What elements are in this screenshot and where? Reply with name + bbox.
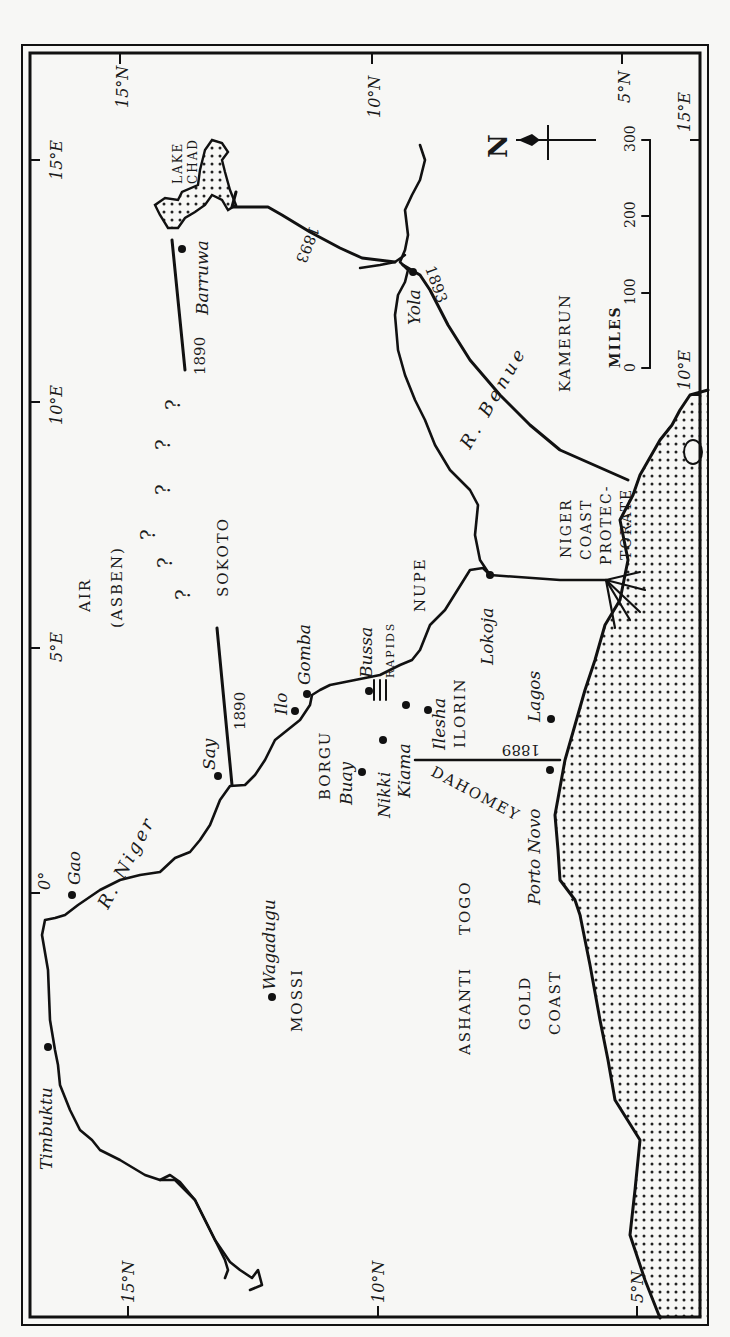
region-niger-coast-1: NIGER <box>558 498 574 558</box>
river-niger-branch <box>160 1175 262 1290</box>
label-ilesha: Ilesha <box>429 698 449 751</box>
marker-lokoja <box>486 571 494 579</box>
label-bussa: Bussa <box>356 627 376 679</box>
label-1893-north: 1893 <box>292 224 323 266</box>
marker-ilo <box>291 707 299 715</box>
label-gomba: Gomba <box>294 624 314 685</box>
compass-label: N <box>483 134 513 158</box>
label-timbuktu: Timbuktu <box>36 1087 56 1170</box>
label-yola: Yola <box>404 289 424 325</box>
label-1889: 1889 <box>502 741 540 759</box>
scale-tick-100: 100 <box>622 278 638 305</box>
marker-lagos <box>547 715 555 723</box>
question-mark: ? <box>171 589 195 600</box>
label-buay: Buay <box>336 761 356 806</box>
lon-left-5e: 5°E <box>47 632 66 662</box>
label-wagadugu: Wagadugu <box>259 899 279 990</box>
marker-yola <box>409 268 417 276</box>
lon-right-10e: 10°E <box>675 350 694 390</box>
label-ilo: Ilo <box>271 693 291 716</box>
region-asben: (ASBEN) <box>108 546 126 628</box>
marker-wagadugu <box>268 993 276 1001</box>
region-gold: GOLD <box>516 976 534 1030</box>
region-kamerun: KAMERUN <box>556 293 574 392</box>
river-niger <box>42 568 606 1278</box>
region-lake-chad-2: CHAD <box>186 138 200 184</box>
region-niger-coast-2: COAST <box>578 499 594 560</box>
label-lokoja: Lokoja <box>477 608 497 666</box>
region-ashanti: ASHANTI <box>456 967 474 1056</box>
lat-top-15n: 15°N <box>113 65 132 108</box>
marker-timbuktu <box>44 1043 52 1051</box>
label-rapids: RAPIDS <box>384 622 397 678</box>
label-river-niger: R. Niger <box>93 813 160 913</box>
label-barruwa: Barruwa <box>192 240 212 316</box>
lat-bottom-15n: 15°N <box>119 1260 138 1303</box>
region-dahomey: DAHOMEY <box>428 763 523 825</box>
question-mark: ? <box>153 557 177 568</box>
question-mark: ? <box>161 399 185 410</box>
compass-north-arrow-icon <box>516 125 596 160</box>
region-niger-coast-4: TORATE <box>618 488 634 560</box>
region-ilorin: ILORIN <box>451 677 469 748</box>
label-nikki: Nikki <box>374 772 394 819</box>
question-mark: ? <box>136 529 160 540</box>
marker-say <box>214 772 222 780</box>
region-air: AIR <box>76 578 94 613</box>
label-kiama: Kiama <box>394 743 414 799</box>
marker-nikki <box>379 736 387 744</box>
label-gao: Gao <box>64 851 84 885</box>
region-lake-chad-1: LAKE <box>171 142 185 184</box>
lon-left-15e: 15°E <box>47 140 66 180</box>
label-lagos: Lagos <box>524 670 544 723</box>
marker-kiama <box>402 701 410 709</box>
scale-bar <box>642 140 650 368</box>
lat-top-5n: 5°N <box>615 70 634 103</box>
lat-bottom-5n: 5°N <box>628 1270 647 1303</box>
marker-porto-novo <box>546 766 554 774</box>
lon-left-0: 0° <box>35 872 54 890</box>
marker-gomba <box>303 690 311 698</box>
marker-buay <box>358 768 366 776</box>
scale-unit-label: MILES <box>607 305 623 368</box>
region-labels: AIR (ASBEN) SOKOTO NUPE BORGU ILORIN MOS… <box>76 138 634 1056</box>
map-canvas: N 0 100 200 300 MILES 15°N 10°N 5°N 15°N… <box>0 0 730 1337</box>
question-mark: ? <box>151 484 175 495</box>
region-sokoto: SOKOTO <box>214 517 232 597</box>
region-mossi: MOSSI <box>288 968 306 1032</box>
label-say: Say <box>199 738 219 770</box>
river-benue <box>395 145 490 575</box>
label-1890-say: 1890 <box>231 692 249 730</box>
scale-tick-300: 300 <box>622 125 638 152</box>
lon-left-10e: 10°E <box>47 385 66 425</box>
label-river-benue: R. Benue <box>455 342 531 453</box>
lat-top-10n: 10°N <box>365 75 384 118</box>
marker-gao <box>68 891 76 899</box>
region-coast: COAST <box>546 970 564 1035</box>
marker-bussa <box>365 687 373 695</box>
scale-tick-0: 0 <box>622 363 638 372</box>
region-nupe: NUPE <box>411 557 429 612</box>
lon-right-15e: 15°E <box>675 92 694 132</box>
label-1890-barruwa: 1890 <box>191 337 209 375</box>
marker-barruwa <box>178 245 186 253</box>
scale-tick-200: 200 <box>622 201 638 228</box>
region-niger-coast-3: PROTEC- <box>598 485 614 565</box>
region-togo: TOGO <box>456 880 474 935</box>
lat-bottom-10n: 10°N <box>369 1260 388 1303</box>
unknown-territory-marks: ? ? ? ? ? ? <box>136 399 195 600</box>
region-borgu: BORGU <box>316 730 334 800</box>
rapids-icon <box>374 680 386 700</box>
label-porto-novo: Porto Novo <box>524 808 544 906</box>
question-mark: ? <box>151 439 175 450</box>
